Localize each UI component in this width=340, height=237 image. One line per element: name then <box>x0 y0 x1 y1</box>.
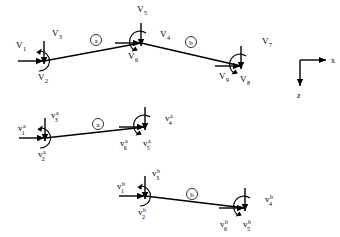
global-structure: abV1V2V3V4V5V6V7V8V9 <box>16 4 272 86</box>
force-label-V4: V4 <box>160 29 170 41</box>
force-label-v3b: vb3 <box>152 168 160 181</box>
diagram-canvas: abV1V2V3V4V5V6V7V8V9ava1va2va3va4va5va6b… <box>0 0 340 237</box>
force-label-V1: V1 <box>16 40 26 52</box>
force-label-V7: V7 <box>262 36 272 48</box>
force-label-v4a: va4 <box>165 113 173 126</box>
element-badge-b: b <box>186 37 197 48</box>
force-label-v6b: vb6 <box>220 219 228 232</box>
element-a-free-body: ava1va2va3va4va5va6 <box>18 107 173 162</box>
member-a <box>44 43 141 61</box>
moment-arc-v6a <box>134 115 150 134</box>
force-label-V8: V8 <box>240 74 250 86</box>
element-badge-label-b: b <box>190 191 194 199</box>
element-badge-b: b <box>187 189 198 200</box>
element-b-free-body: bvb1vb2vb3vb4vb5vb6 <box>117 168 273 232</box>
force-label-v6a: va6 <box>120 138 128 151</box>
force-label-v2b: vb2 <box>138 207 146 220</box>
force-label-v5b: vb5 <box>243 219 251 232</box>
axis-x-label: x <box>331 56 335 65</box>
moment-arc-V6 <box>130 31 146 50</box>
force-label-V6: V6 <box>128 51 138 63</box>
force-label-v3a: va3 <box>51 110 59 123</box>
force-label-V9: V9 <box>219 71 229 83</box>
force-label-v5a: va5 <box>143 138 151 151</box>
force-label-V2: V2 <box>38 72 48 84</box>
moment-arc-v6b <box>234 196 250 215</box>
force-label-v4b: vb4 <box>265 194 273 207</box>
element-badge-a: a <box>91 35 102 46</box>
force-label-v1b: vb1 <box>117 181 125 194</box>
structural-force-diagram: abV1V2V3V4V5V6V7V8V9ava1va2va3va4va5va6b… <box>0 0 340 237</box>
force-label-v2a: va2 <box>38 149 46 162</box>
axis-z-label: z <box>297 91 301 100</box>
element-badge-a: a <box>93 119 104 130</box>
element-badge-label-b: b <box>189 39 193 47</box>
coordinate-axes: xz <box>297 56 335 100</box>
force-label-V5: V5 <box>137 4 147 16</box>
force-label-v1a: va1 <box>18 123 26 136</box>
force-label-V3: V3 <box>52 28 62 40</box>
